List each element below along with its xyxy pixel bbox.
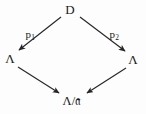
commutative-diagram: D Λ Λ Λ/𝔞 p1 p2 xyxy=(0,0,146,114)
edge-label-p2: p2 xyxy=(109,29,118,40)
edge-label-p1: p1 xyxy=(25,29,34,40)
arrow-lambda-left-to-quotient xyxy=(18,67,59,93)
arrow-lambda-right-to-quotient xyxy=(87,68,126,93)
edge-label-p2-subscript: 2 xyxy=(115,33,119,42)
node-bottom-lambda-quotient: Λ/𝔞 xyxy=(63,95,82,108)
node-left-lambda: Λ xyxy=(5,52,14,65)
edge-label-p2-base: p xyxy=(109,28,115,40)
node-top-d: D xyxy=(65,3,74,16)
edge-label-p1-subscript: 1 xyxy=(31,33,35,42)
edge-label-p1-base: p xyxy=(25,28,31,40)
node-right-lambda: Λ xyxy=(128,53,137,66)
